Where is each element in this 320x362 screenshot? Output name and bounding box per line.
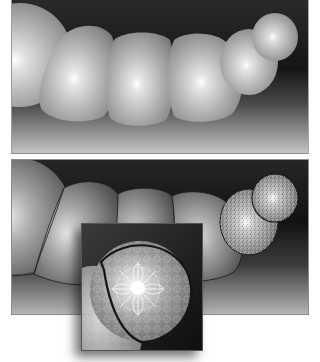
segment-6-head-textured (252, 174, 298, 222)
smooth-caterpillar-illustration (12, 0, 308, 153)
top-panel-smooth-caterpillar (11, 0, 309, 154)
segment-6-head (252, 13, 298, 61)
ornamental-head-closeup (82, 224, 202, 350)
segment-3 (107, 33, 175, 126)
magnified-head-inset (81, 223, 203, 351)
